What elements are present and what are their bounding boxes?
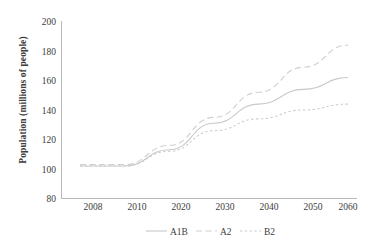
legend-label-a2: A2 [220, 227, 232, 237]
series-line-a2 [80, 45, 348, 164]
chart-canvas: 200 180 160 140 120 100 80 2008 2010 202… [0, 0, 379, 244]
y-tick-label: 120 [42, 135, 57, 145]
population-projection-chart: Population (millions of people) 200 180 … [0, 0, 379, 244]
y-tick-label: 140 [42, 106, 57, 116]
x-axis-group: 2008 2010 2020 2030 2040 2050 2060 [62, 199, 358, 213]
x-tick-label: 2008 [84, 202, 103, 212]
x-tick-label: 2010 [128, 202, 147, 212]
x-tick-label: 2020 [172, 202, 191, 212]
y-axis-ticks: 200 180 160 140 120 100 80 [42, 17, 57, 204]
series-line-b2 [80, 104, 348, 166]
legend: A1B A2 B2 [146, 227, 275, 237]
y-tick-label: 80 [47, 194, 57, 204]
y-tick-label: 100 [42, 165, 57, 175]
legend-label-b2: B2 [264, 227, 275, 237]
y-tick-label: 200 [42, 17, 57, 27]
x-tick-label: 2030 [216, 202, 235, 212]
y-tick-label: 160 [42, 76, 57, 86]
y-tick-label: 180 [42, 47, 57, 57]
series-group [80, 45, 348, 166]
x-tick-label: 2050 [304, 202, 323, 212]
y-axis-group: 200 180 160 140 120 100 80 [42, 17, 62, 204]
x-tick-label: 2060 [339, 202, 358, 212]
x-tick-label: 2040 [260, 202, 279, 212]
legend-label-a1b: A1B [170, 227, 188, 237]
x-axis-ticks: 2008 2010 2020 2030 2040 2050 2060 [84, 202, 358, 212]
series-line-a1b [80, 78, 348, 167]
